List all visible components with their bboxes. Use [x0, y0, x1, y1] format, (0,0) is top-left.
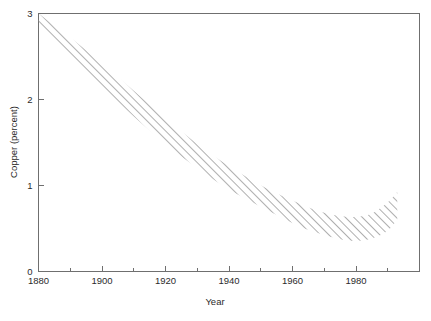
x-tick-label: 1920 [155, 275, 176, 286]
x-tick-label: 1940 [218, 275, 239, 286]
x-tick-label: 1880 [28, 275, 49, 286]
x-tick-label: 1980 [345, 275, 366, 286]
y-tick-label: 3 [27, 8, 32, 19]
y-axis-title: Copper (percent) [8, 106, 19, 178]
chart-figure: 0123 188019001920194019601980 Copper (pe… [0, 0, 431, 321]
x-tick-label: 1960 [282, 275, 303, 286]
y-tick-label: 2 [27, 94, 32, 105]
chart-plot-area: 0123 188019001920194019601980 Copper (pe… [0, 0, 431, 321]
y-tick-label: 1 [27, 180, 32, 191]
x-tick-label: 1900 [91, 275, 112, 286]
x-axis-title: Year [205, 296, 224, 307]
y-axis-ticks: 0123 [27, 8, 43, 277]
copper-grade-band [39, 14, 398, 241]
x-axis-ticks: 188019001920194019601980 [28, 266, 388, 286]
